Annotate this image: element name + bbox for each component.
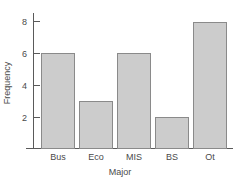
y-tick-label-2: 2 <box>22 113 27 123</box>
x-label-eco: Eco <box>88 152 104 162</box>
y-tick-label-6: 6 <box>22 49 27 59</box>
x-category-labels: Bus Eco MIS BS Ot <box>50 152 215 162</box>
bar-ot <box>194 23 227 149</box>
y-tick-label-4: 4 <box>22 81 27 91</box>
x-axis-title: Major <box>109 167 132 177</box>
y-tick-label-8: 8 <box>22 17 27 27</box>
bar-chart-figure: 8 6 4 2 Bus Eco MIS BS Ot Major Frequenc… <box>0 0 239 178</box>
x-label-bs: BS <box>166 152 178 162</box>
x-label-ot: Ot <box>205 152 215 162</box>
bar-mis <box>118 54 151 149</box>
y-axis-title: Frequency <box>2 61 12 104</box>
bars-group <box>42 23 227 149</box>
y-tick-labels: 8 6 4 2 <box>22 17 27 123</box>
chart-canvas: 8 6 4 2 Bus Eco MIS BS Ot Major Frequenc… <box>0 0 239 178</box>
bar-eco <box>80 102 113 149</box>
y-tick-marks <box>34 22 41 118</box>
x-label-bus: Bus <box>50 152 66 162</box>
bar-bus <box>42 54 75 149</box>
bar-bs <box>156 118 189 149</box>
x-label-mis: MIS <box>126 152 142 162</box>
